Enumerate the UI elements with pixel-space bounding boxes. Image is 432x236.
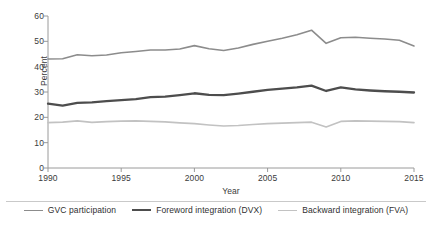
x-tick-label: 1990 xyxy=(38,173,57,183)
x-tick-label: 2010 xyxy=(331,173,350,183)
y-tick-label: 40 xyxy=(34,62,44,72)
legend-swatch-icon xyxy=(278,210,297,211)
y-tick-label: 60 xyxy=(34,11,44,21)
y-tick-label: 20 xyxy=(34,112,44,122)
x-tick-label: 2015 xyxy=(404,173,423,183)
legend-separator xyxy=(6,201,426,202)
legend-label: GVC participation xyxy=(48,205,116,215)
x-axis-title: Year xyxy=(48,186,414,196)
y-tick-label: 10 xyxy=(34,138,44,148)
series-line-1 xyxy=(48,86,414,106)
legend-item[interactable]: Foreword integration (DVX) xyxy=(132,205,262,215)
legend-label: Backward integration (FVA) xyxy=(302,205,408,215)
chart-plot xyxy=(48,16,414,168)
chart-figure: Percent Year 010203040506019901995200020… xyxy=(0,0,432,236)
x-tick-label: 2005 xyxy=(258,173,277,183)
series-line-2 xyxy=(48,121,414,127)
legend-label: Foreword integration (DVX) xyxy=(156,205,262,215)
legend-swatch-icon xyxy=(132,209,151,211)
y-tick-label: 50 xyxy=(34,36,44,46)
y-tick-label: 30 xyxy=(34,87,44,97)
x-tick-label: 1995 xyxy=(112,173,131,183)
legend-item[interactable]: Backward integration (FVA) xyxy=(278,205,408,215)
legend-item[interactable]: GVC participation xyxy=(24,205,116,215)
plot-area: Percent Year 010203040506019901995200020… xyxy=(48,16,414,168)
legend-swatch-icon xyxy=(24,210,43,211)
x-tick-label: 2000 xyxy=(185,173,204,183)
chart-legend: GVC participationForeword integration (D… xyxy=(0,205,432,215)
y-tick-label: 0 xyxy=(39,163,44,173)
series-line-0 xyxy=(48,30,414,59)
